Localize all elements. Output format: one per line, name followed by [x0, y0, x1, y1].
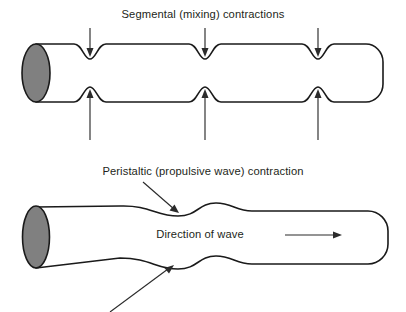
peristaltic-caption: Peristaltic (propulsive wave) contractio…	[102, 165, 303, 177]
direction-of-wave-label: Direction of wave	[156, 228, 244, 240]
segmental-top-arrow-1	[87, 28, 94, 57]
segmental-top-arrow-2	[202, 28, 209, 57]
segmental-bottom-arrow-3	[315, 89, 322, 140]
arrow-head-icon	[87, 89, 94, 98]
arrow-head-icon	[315, 48, 322, 57]
segmental-tube-outline	[36, 44, 383, 102]
arrow-head-icon	[315, 89, 322, 98]
segmental-end-cap	[22, 44, 50, 102]
peristaltic-leader-upper	[143, 182, 179, 213]
intestinal-motility-diagram: Segmental (mixing) contractions	[0, 0, 406, 312]
arrow-head-icon	[87, 48, 94, 57]
peristaltic-panel: Peristaltic (propulsive wave) contractio…	[23, 165, 389, 312]
peristaltic-end-cap	[23, 206, 50, 268]
segmental-caption: Segmental (mixing) contractions	[122, 8, 285, 20]
segmental-bottom-arrow-1	[87, 89, 94, 140]
peristaltic-leader-lower	[110, 265, 174, 312]
segmental-panel: Segmental (mixing) contractions	[22, 8, 383, 140]
arrow-head-icon	[202, 48, 209, 57]
arrow-head-icon	[202, 89, 209, 98]
segmental-bottom-arrow-2	[202, 89, 209, 140]
segmental-top-arrow-3	[315, 28, 322, 57]
